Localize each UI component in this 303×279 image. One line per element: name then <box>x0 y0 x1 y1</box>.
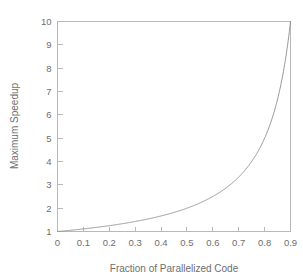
x-axis-title: Fraction of Parallelized Code <box>110 263 239 274</box>
speedup-curve <box>58 22 291 232</box>
y-tick-label: 4 <box>46 156 51 167</box>
chart-canvas: 12345678910 00.10.20.30.40.50.60.70.80.9… <box>0 0 303 279</box>
x-axis-tick-labels: 00.10.20.30.40.50.60.70.80.9 <box>55 237 297 248</box>
x-tick-label: 0.9 <box>284 237 297 248</box>
y-tick-label: 3 <box>46 179 51 190</box>
x-axis-ticks <box>83 227 264 232</box>
x-tick-label: 0.8 <box>258 237 271 248</box>
x-tick-label: 0.6 <box>206 237 219 248</box>
y-tick-label: 1 <box>46 226 51 237</box>
x-tick-label: 0.2 <box>103 237 116 248</box>
y-tick-label: 10 <box>41 16 52 27</box>
x-tick-label: 0 <box>55 237 60 248</box>
y-tick-label: 2 <box>46 203 51 214</box>
y-axis-ticks <box>58 45 63 208</box>
y-axis-title: Maximum Speedup <box>9 82 20 169</box>
y-tick-label: 6 <box>46 109 51 120</box>
y-axis-tick-labels: 12345678910 <box>41 16 52 237</box>
x-tick-label: 0.3 <box>129 237 142 248</box>
y-tick-label: 5 <box>46 133 51 144</box>
y-tick-label: 8 <box>46 63 51 74</box>
amdahls-law-chart: 12345678910 00.10.20.30.40.50.60.70.80.9… <box>0 0 303 279</box>
x-tick-label: 0.1 <box>77 237 90 248</box>
x-tick-label: 0.5 <box>180 237 193 248</box>
y-tick-label: 7 <box>46 86 51 97</box>
x-tick-label: 0.7 <box>232 237 245 248</box>
y-tick-label: 9 <box>46 39 51 50</box>
x-tick-label: 0.4 <box>154 237 167 248</box>
plot-frame <box>58 22 291 232</box>
